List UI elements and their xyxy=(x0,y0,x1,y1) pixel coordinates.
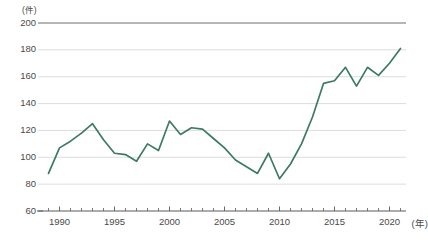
y-axis-tick-label: 80 xyxy=(10,178,36,189)
x-axis-tick-label: 2020 xyxy=(379,216,400,227)
y-axis-tick-label: 140 xyxy=(10,97,36,108)
y-axis-tick-label: 60 xyxy=(10,205,36,216)
y-axis-tick-label: 100 xyxy=(10,151,36,162)
x-axis-tick-label: 1990 xyxy=(49,216,70,227)
x-axis-tick-label: 2010 xyxy=(269,216,290,227)
x-axis-unit-label: (年) xyxy=(412,216,428,230)
y-axis-tick-label: 120 xyxy=(10,124,36,135)
x-axis-tick-label: 1995 xyxy=(104,216,125,227)
y-axis-tick-label: 200 xyxy=(10,17,36,28)
x-axis-tick-label: 2015 xyxy=(324,216,345,227)
y-axis-tick-label: 180 xyxy=(10,43,36,54)
x-axis-tick-label: 2005 xyxy=(214,216,235,227)
data-series-line xyxy=(49,49,401,179)
x-axis-tick-label: 2000 xyxy=(159,216,180,227)
y-axis-tick-label: 160 xyxy=(10,70,36,81)
